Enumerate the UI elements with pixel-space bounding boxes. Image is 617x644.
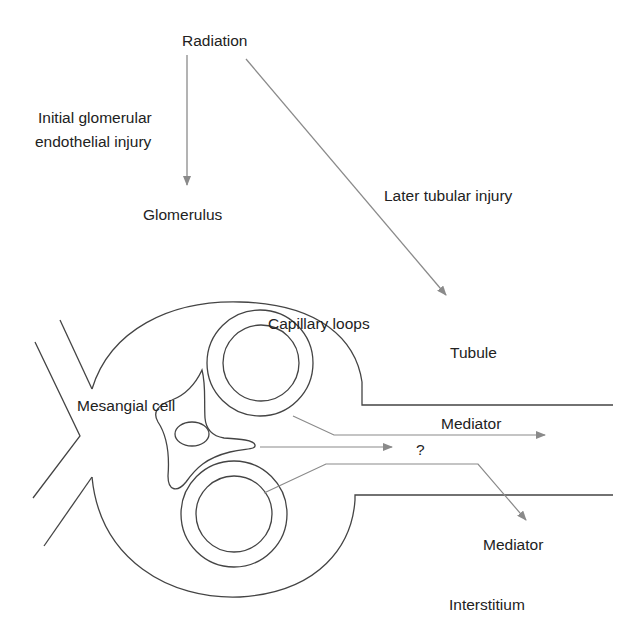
label-mediator-tubule: Mediator (441, 414, 501, 434)
label-tubule: Tubule (450, 343, 497, 363)
label-capillary-loops: Capillary loops (268, 314, 370, 334)
label-interstitium: Interstitium (449, 595, 525, 615)
label-initial-injury-line2: endothelial injury (35, 132, 151, 152)
label-initial-injury-line1: Initial glomerular (38, 108, 152, 128)
arrow-mediator-to-interstitium (264, 464, 526, 520)
label-mediator-interstitium: Mediator (483, 535, 543, 555)
mesangial-cell-nucleus (175, 422, 209, 446)
arrow-radiation-to-tubule (246, 59, 446, 295)
mesangial-cell (156, 370, 255, 489)
label-question-mark: ? (416, 440, 425, 460)
arrow-mediator-to-tubule (293, 416, 545, 435)
label-radiation: Radiation (182, 31, 248, 51)
capillary-loop-lower (181, 461, 287, 567)
label-mesangial-cell: Mesangial cell (77, 396, 175, 416)
label-later-tubular-injury: Later tubular injury (384, 186, 512, 206)
label-glomerulus: Glomerulus (143, 205, 222, 225)
arteriole-lines (33, 320, 92, 546)
